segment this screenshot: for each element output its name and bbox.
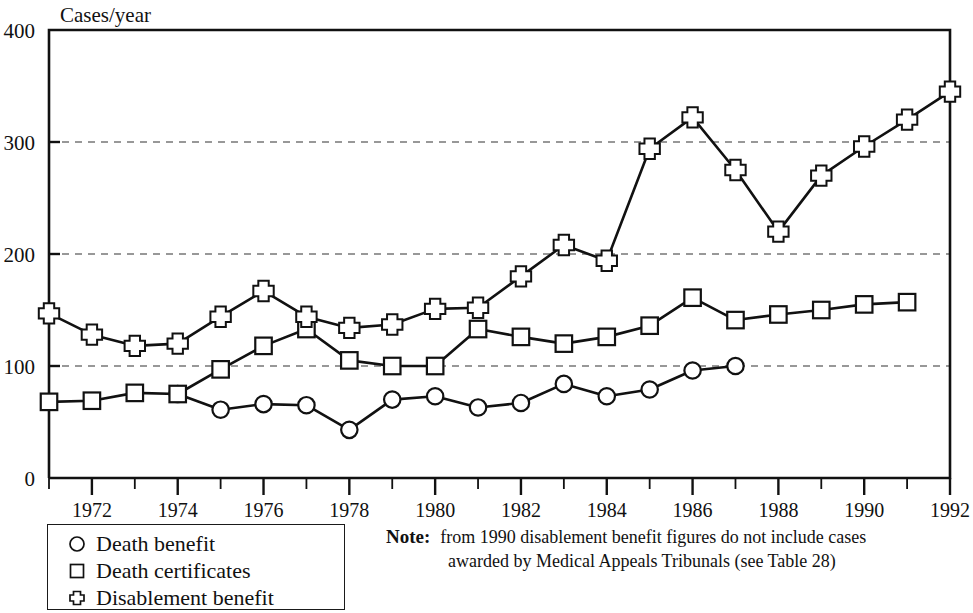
- x-axis-tick-label: 1988: [758, 499, 798, 521]
- data-point-cross: [82, 324, 102, 344]
- legend-item-disablement-benefit: Disablement benefit: [66, 585, 344, 610]
- data-point-cross: [768, 221, 788, 241]
- note-text-line-1: from 1990 disablement benefit figures do…: [440, 526, 866, 549]
- data-point-circle: [599, 388, 615, 404]
- x-axis-tick-label: 1976: [244, 499, 284, 521]
- chart-note: Note: from 1990 disablement benefit figu…: [386, 526, 966, 573]
- data-point-circle: [684, 362, 700, 378]
- data-point-square: [727, 312, 744, 329]
- legend-label-death-certificates: Death certificates: [96, 560, 251, 582]
- data-point-square: [41, 394, 58, 411]
- data-point-cross: [639, 139, 659, 159]
- data-point-square: [169, 386, 186, 403]
- data-point-circle: [470, 399, 486, 415]
- data-point-square: [84, 392, 101, 409]
- data-point-circle: [513, 395, 529, 411]
- y-axis-tick-label: 200: [4, 243, 36, 267]
- series-death-benefit: [170, 358, 744, 438]
- note-second-line: awarded by Medical Appeals Tribunals (se…: [448, 550, 966, 573]
- square-marker-icon: [66, 560, 90, 582]
- y-axis-tick-label: 100: [4, 355, 36, 379]
- x-axis-tick-label: 1974: [158, 499, 198, 521]
- cross-marker-icon: [66, 587, 90, 609]
- legend-item-death-certificates: Death certificates: [66, 558, 344, 583]
- x-axis-tick-label: 1992: [930, 499, 970, 521]
- data-point-square: [813, 302, 830, 319]
- data-point-circle: [212, 401, 228, 417]
- data-point-cross: [854, 136, 874, 156]
- x-axis-tick-label: 1972: [72, 499, 112, 521]
- data-point-cross: [554, 235, 574, 255]
- data-point-cross: [811, 165, 831, 185]
- data-point-square: [556, 335, 573, 352]
- data-point-circle: [727, 358, 743, 374]
- data-point-circle: [641, 381, 657, 397]
- data-point-square: [255, 338, 272, 355]
- data-point-cross: [940, 81, 960, 101]
- x-axis-tick-label: 1980: [415, 499, 455, 521]
- data-point-cross: [210, 307, 230, 327]
- data-point-square: [641, 317, 658, 334]
- data-point-square: [127, 385, 144, 402]
- data-point-square: [427, 358, 444, 375]
- note-label: Note:: [386, 526, 430, 548]
- data-point-cross: [339, 318, 359, 338]
- data-point-cross: [168, 333, 188, 353]
- data-point-square: [770, 306, 787, 323]
- data-point-cross: [125, 336, 145, 356]
- note-first-line: Note: from 1990 disablement benefit figu…: [386, 526, 966, 549]
- y-axis-tick-label: 300: [4, 131, 36, 155]
- data-point-square: [599, 329, 616, 346]
- data-point-cross: [511, 266, 531, 286]
- circle-marker-icon: [66, 533, 90, 555]
- data-point-cross: [425, 299, 445, 319]
- legend-label-disablement-benefit: Disablement benefit: [96, 587, 274, 609]
- data-point-circle: [427, 388, 443, 404]
- data-point-square: [513, 329, 530, 346]
- data-point-square: [856, 296, 873, 313]
- y-axis-tick-label: 400: [4, 19, 36, 43]
- data-point-circle: [556, 376, 572, 392]
- data-point-circle: [341, 422, 357, 438]
- data-point-square: [384, 358, 401, 375]
- note-text-line-2: awarded by Medical Appeals Tribunals (se…: [448, 551, 836, 571]
- data-point-circle: [255, 396, 271, 412]
- data-point-square: [212, 361, 229, 378]
- x-axis-tick-label: 1984: [587, 499, 627, 521]
- data-point-circle: [384, 391, 400, 407]
- data-point-cross: [382, 314, 402, 334]
- data-point-circle: [298, 397, 314, 413]
- data-point-square: [899, 294, 916, 311]
- chart-legend: Death benefit Death certificates Disable…: [47, 524, 345, 610]
- data-point-square: [684, 289, 701, 306]
- data-point-cross: [39, 303, 59, 323]
- legend-label-death-benefit: Death benefit: [96, 533, 215, 555]
- data-point-square: [470, 321, 487, 338]
- x-axis-tick-label: 1986: [673, 499, 713, 521]
- x-axis-tick-label: 1990: [844, 499, 884, 521]
- x-axis-tick-label: 1982: [501, 499, 541, 521]
- data-point-cross: [897, 109, 917, 129]
- data-point-cross: [253, 281, 273, 301]
- y-axis-tick-label: 0: [25, 467, 36, 491]
- data-point-cross: [468, 298, 488, 318]
- y-axis-title: Cases/year: [60, 3, 151, 27]
- legend-item-death-benefit: Death benefit: [66, 531, 344, 556]
- data-point-square: [341, 352, 358, 369]
- x-axis-tick-label: 1978: [329, 499, 369, 521]
